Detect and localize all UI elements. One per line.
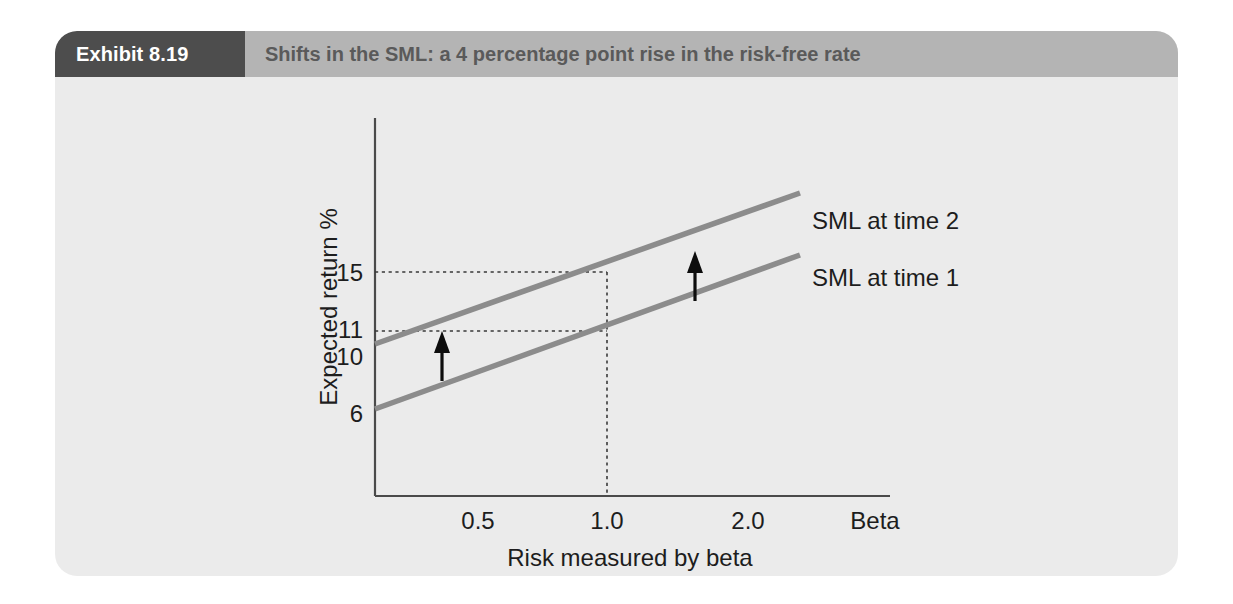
x-tick-label-0-5: 0.5 xyxy=(461,507,494,534)
x-tick-label-1-0: 1.0 xyxy=(590,507,623,534)
exhibit-badge: Exhibit 8.19 xyxy=(55,31,245,77)
series-label-sml-time-2: SML at time 2 xyxy=(812,207,959,234)
series-label-sml-time-1: SML at time 1 xyxy=(812,264,959,291)
exhibit-badge-label: Exhibit 8.19 xyxy=(76,43,188,66)
shift-arrow-left xyxy=(434,331,450,381)
y-axis-title: Expected return % xyxy=(315,208,342,405)
x-axis-end-label-beta: Beta xyxy=(850,507,900,534)
sml-shift-chart: 15 11 10 6 0.5 1.0 2.0 Beta SML at time … xyxy=(55,77,1178,576)
sml-line-time-2 xyxy=(375,193,800,344)
exhibit-header: Exhibit 8.19 Shifts in the SML: a 4 perc… xyxy=(55,31,1178,77)
x-tick-label-2-0: 2.0 xyxy=(731,507,764,534)
chart-plot-area: 15 11 10 6 0.5 1.0 2.0 Beta SML at time … xyxy=(55,77,1178,576)
x-axis-title: Risk measured by beta xyxy=(507,544,753,571)
exhibit-title: Shifts in the SML: a 4 percentage point … xyxy=(265,31,861,77)
y-tick-label-6: 6 xyxy=(350,400,363,427)
sml-line-time-1 xyxy=(375,255,800,409)
exhibit-panel: Exhibit 8.19 Shifts in the SML: a 4 perc… xyxy=(55,31,1178,576)
